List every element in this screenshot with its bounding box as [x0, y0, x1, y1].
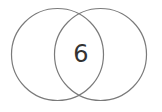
intersection-label: 6: [66, 42, 96, 66]
